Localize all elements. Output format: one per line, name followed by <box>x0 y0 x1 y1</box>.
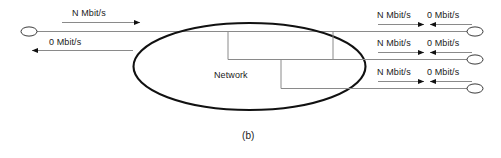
right-access-link-3 <box>340 82 483 94</box>
right-access-link-2 <box>333 53 483 65</box>
right-row1-downstream-label: N Mbit/s <box>377 10 411 20</box>
right-row2-downstream-label: N Mbit/s <box>377 38 411 48</box>
right-row3-downstream-label: N Mbit/s <box>377 67 411 77</box>
left-terminal-node <box>21 27 37 36</box>
left-downstream-label: N Mbit/s <box>72 8 106 18</box>
network-asymmetry-diagram: N Mbit/s 0 Mbit/s Network N Mbit/s 0 Mbi… <box>0 0 501 158</box>
right-access-link-1 <box>330 25 483 37</box>
network-cloud <box>134 23 371 110</box>
right-row2-terminal-node <box>467 55 483 64</box>
network-ellipse <box>134 23 366 110</box>
right-row1-terminal-node <box>467 27 483 36</box>
right-row1-upstream-label: 0 Mbit/s <box>427 10 459 20</box>
right-row3-upstream-label: 0 Mbit/s <box>427 67 459 77</box>
network-label: Network <box>214 70 248 80</box>
right-row3-terminal-node <box>467 84 483 93</box>
figure-caption: (b) <box>242 130 255 141</box>
right-row2-upstream-label: 0 Mbit/s <box>427 38 459 48</box>
left-upstream-label: 0 Mbit/s <box>49 37 81 47</box>
internal-bracket-row2 <box>228 32 333 60</box>
